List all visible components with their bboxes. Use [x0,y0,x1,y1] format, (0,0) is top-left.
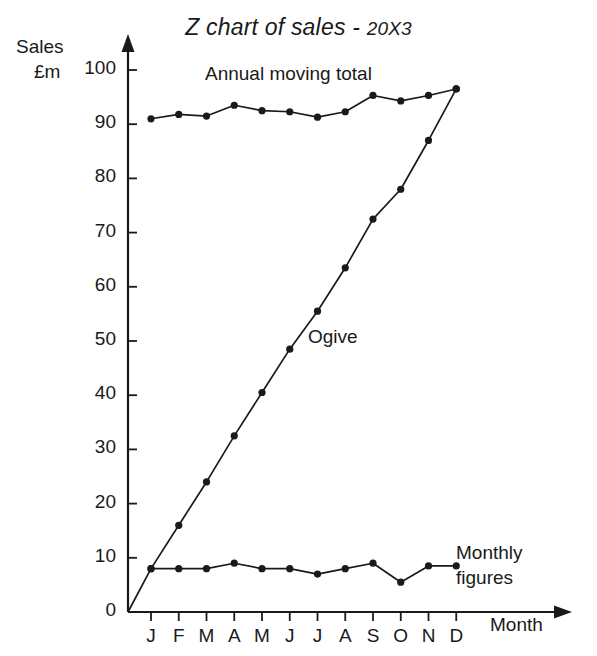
data-point-marker [203,112,210,119]
data-point-marker [231,102,238,109]
data-point-marker [342,108,349,115]
y-axis-tick-marks [128,70,137,558]
chart-plot-area [0,0,597,656]
data-point-marker [314,114,321,121]
data-point-marker [175,522,182,529]
data-series-group [128,85,460,612]
axes-group [122,34,573,619]
y-axis-arrow-icon [122,34,135,52]
data-point-marker [369,215,376,222]
data-point-marker [231,560,238,567]
data-point-marker [397,186,404,193]
data-point-marker [342,264,349,271]
data-point-marker [147,115,154,122]
x-axis-tick-marks [151,612,456,621]
data-point-marker [231,432,238,439]
data-point-marker [453,562,460,569]
series-monthly-figures [147,560,459,586]
data-point-marker [286,346,293,353]
data-point-marker [258,565,265,572]
data-point-marker [147,565,154,572]
data-point-marker [314,308,321,315]
data-point-marker [397,97,404,104]
data-point-marker [314,570,321,577]
series-ogive [128,85,460,612]
data-point-marker [203,565,210,572]
data-point-marker [258,389,265,396]
data-point-marker [369,92,376,99]
data-point-marker [425,137,432,144]
data-point-marker [286,565,293,572]
data-point-marker [453,85,460,92]
z-chart-figure: Z chart of sales - 20X3 Sales £m Month 0… [0,0,597,656]
series-line [151,563,456,582]
data-point-marker [425,562,432,569]
data-point-marker [258,107,265,114]
data-point-marker [286,108,293,115]
series-annual-moving-total [147,85,459,122]
data-point-marker [369,560,376,567]
x-axis-arrow-icon [554,606,572,619]
data-point-marker [425,92,432,99]
data-point-marker [175,565,182,572]
data-point-marker [203,478,210,485]
data-point-marker [175,111,182,118]
data-point-marker [342,565,349,572]
data-point-marker [397,579,404,586]
series-line [151,89,456,119]
